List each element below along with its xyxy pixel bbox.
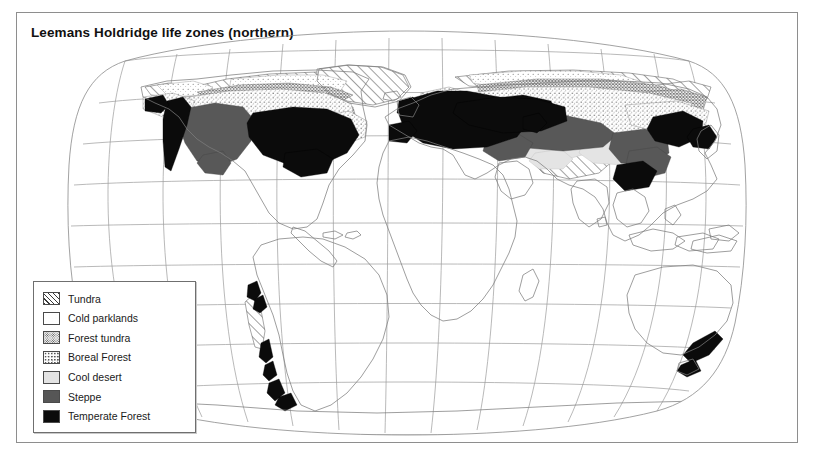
figure-root: Leemans Holdridge life zones (northern) [0, 0, 815, 460]
legend-item-tundra[interactable]: Tundra [34, 289, 195, 309]
map-legend: Tundra Cold parklands Forest tundra Bore… [33, 281, 196, 433]
legend-label-steppe: Steppe [68, 392, 101, 403]
legend-swatch-steppe [43, 390, 60, 403]
legend-swatch-tundra [43, 292, 60, 305]
life-zone-areas [143, 65, 753, 411]
legend-item-temperate-forest[interactable]: Temperate Forest [34, 407, 195, 427]
legend-swatch-cool-desert [43, 371, 60, 384]
figure-frame: Leemans Holdridge life zones (northern) [16, 12, 798, 443]
legend-label-boreal-forest: Boreal Forest [68, 352, 131, 363]
legend-label-temperate-forest: Temperate Forest [68, 411, 150, 422]
legend-label-cool-desert: Cool desert [68, 372, 122, 383]
legend-swatch-temperate-forest [43, 410, 60, 423]
legend-item-cool-desert[interactable]: Cool desert [34, 367, 195, 387]
legend-item-cold-parklands[interactable]: Cold parklands [34, 309, 195, 329]
legend-swatch-cold-parklands [43, 312, 60, 325]
bottom-caption [2, 451, 402, 460]
legend-label-cold-parklands: Cold parklands [68, 313, 138, 324]
legend-item-steppe[interactable]: Steppe [34, 387, 195, 407]
legend-item-boreal-forest[interactable]: Boreal Forest [34, 348, 195, 368]
legend-label-forest-tundra: Forest tundra [68, 333, 130, 344]
legend-swatch-boreal-forest [43, 351, 60, 364]
legend-item-forest-tundra[interactable]: Forest tundra [34, 328, 195, 348]
legend-swatch-forest-tundra [43, 331, 60, 344]
legend-label-tundra: Tundra [68, 294, 101, 305]
